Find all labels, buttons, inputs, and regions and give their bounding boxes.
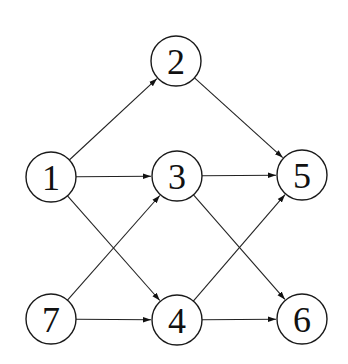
edge-2-to-5 bbox=[195, 78, 283, 158]
node-2: 2 bbox=[151, 36, 201, 86]
node-3: 3 bbox=[152, 151, 202, 201]
node-label: 4 bbox=[168, 301, 186, 341]
node-1: 1 bbox=[26, 152, 76, 202]
node-6: 6 bbox=[277, 294, 327, 344]
node-label: 3 bbox=[168, 157, 186, 197]
node-5: 5 bbox=[277, 150, 327, 200]
edge-3-to-5 bbox=[202, 175, 276, 176]
edge-7-to-4 bbox=[76, 319, 151, 320]
node-label: 1 bbox=[42, 158, 60, 198]
edge-1-to-3 bbox=[76, 176, 151, 177]
node-label: 5 bbox=[293, 156, 311, 196]
node-7: 7 bbox=[26, 294, 76, 344]
nodes-layer: 1234567 bbox=[26, 36, 327, 345]
edge-1-to-2 bbox=[69, 79, 157, 160]
node-4: 4 bbox=[152, 295, 202, 345]
node-label: 7 bbox=[42, 300, 60, 340]
node-label: 2 bbox=[167, 42, 185, 82]
node-label: 6 bbox=[293, 300, 311, 340]
edge-4-to-6 bbox=[202, 319, 276, 320]
directed-graph: 1234567 bbox=[0, 0, 348, 364]
